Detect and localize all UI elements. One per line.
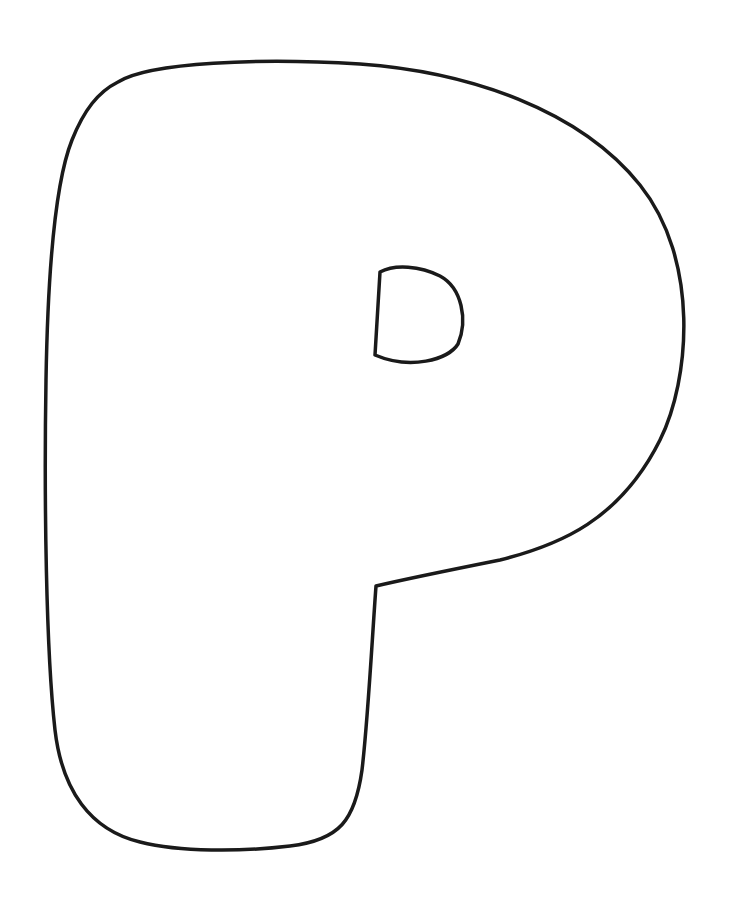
letter-p-drawing	[0, 0, 733, 903]
letter-p-outer-outline	[45, 61, 684, 850]
letter-p-counter-outline	[375, 267, 463, 362]
